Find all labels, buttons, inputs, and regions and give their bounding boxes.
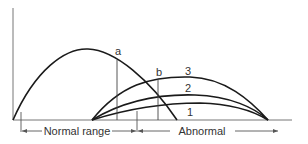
curve-a: [13, 49, 177, 120]
diagram-canvas: a b 3 2 1 Normal range Abnormal: [0, 0, 308, 144]
curve-3: [92, 77, 268, 120]
normal-range-label: Normal range: [44, 125, 111, 137]
curve-1: [92, 103, 268, 120]
arrowhead-left-icon: [22, 129, 27, 133]
label-curve-1: 1: [187, 106, 193, 118]
label-b: b: [156, 66, 162, 78]
abnormal-label: Abnormal: [178, 125, 225, 137]
label-curve-2: 2: [185, 82, 191, 94]
label-a: a: [115, 45, 122, 57]
arrowhead-left-icon: [138, 129, 143, 133]
arrowhead-right-icon: [131, 129, 136, 133]
label-curve-3: 3: [185, 65, 191, 77]
arrowhead-right-icon: [273, 129, 278, 133]
curve-2: [92, 95, 268, 120]
